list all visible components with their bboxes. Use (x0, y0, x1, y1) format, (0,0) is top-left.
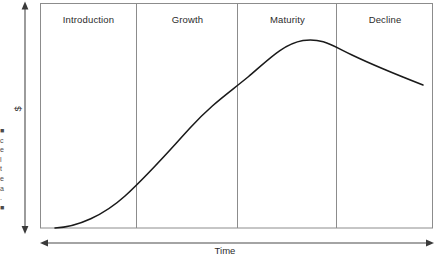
margin-caption-line-9: ■ (0, 203, 7, 213)
stage-label-growth: Growth (137, 15, 238, 25)
life-cycle-curve (55, 40, 423, 228)
product-life-cycle-figure: Introduction Growth Maturity Decline $ T… (0, 0, 435, 260)
y-axis-label: $ (13, 100, 23, 118)
y-axis-arrow (22, 2, 29, 235)
margin-caption-line-7: a (0, 184, 7, 194)
x-axis-label: Time (195, 246, 255, 256)
stage-label-maturity: Maturity (238, 15, 337, 25)
margin-caption-line-8: . (0, 193, 7, 203)
margin-caption-line-4: l (0, 155, 7, 165)
margin-caption-line-1: ■ (0, 126, 7, 136)
stage-label-decline: Decline (337, 15, 433, 25)
margin-caption-line-6: e (0, 174, 7, 184)
margin-caption-fragment: ■ c e l t e a . ■ (0, 126, 7, 212)
margin-caption-line-5: t (0, 164, 7, 174)
margin-caption-line-2: c (0, 136, 7, 146)
plot-frame (41, 4, 433, 229)
margin-caption-line-3: e (0, 145, 7, 155)
stage-label-introduction: Introduction (40, 15, 137, 25)
chart-canvas (0, 0, 435, 260)
